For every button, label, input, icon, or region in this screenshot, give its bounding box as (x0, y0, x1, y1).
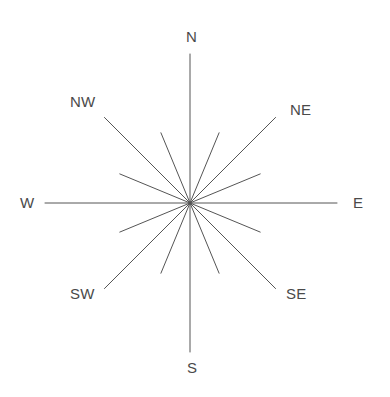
label-southwest: SW (70, 286, 95, 301)
compass-ray-ne (190, 117, 276, 203)
label-north: N (186, 29, 197, 44)
compass-ray-se (190, 203, 276, 289)
compass-rose-figure: N NE E SE S SW W NW (0, 0, 390, 397)
label-southeast: SE (286, 286, 306, 301)
label-northeast: NE (290, 102, 311, 117)
compass-rays-svg (0, 0, 390, 397)
label-south: S (187, 360, 197, 375)
compass-ray-sw (104, 203, 190, 289)
label-east: E (353, 195, 363, 210)
label-west: W (20, 195, 34, 210)
label-northwest: NW (70, 94, 95, 109)
compass-ray-nw (104, 117, 190, 203)
